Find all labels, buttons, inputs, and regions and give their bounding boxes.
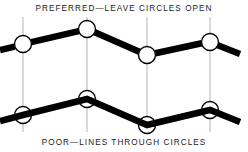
preferred-marker-3 [139, 47, 156, 64]
poor-polyline [0, 99, 240, 125]
preferred-segment-lead-out [218, 45, 240, 54]
preferred-marker-2 [79, 21, 96, 38]
preferred-segment-lead-in [0, 47, 15, 50]
caption-poor: POOR—LINES THROUGH CIRCLES [42, 138, 207, 147]
figure-canvas: PREFERRED—LEAVE CIRCLES OPEN [0, 0, 248, 152]
preferred-marker-1 [15, 36, 32, 53]
preferred-marker-4 [202, 34, 219, 51]
preferred-segment-2 [95, 32, 140, 52]
poor-series [0, 91, 240, 134]
drafting-figure: PREFERRED—LEAVE CIRCLES OPEN [0, 0, 248, 152]
preferred-series [0, 21, 240, 64]
preferred-segment-1 [31, 31, 78, 42]
caption-preferred: PREFERRED—LEAVE CIRCLES OPEN [35, 4, 212, 13]
preferred-segment-3 [155, 43, 201, 53]
